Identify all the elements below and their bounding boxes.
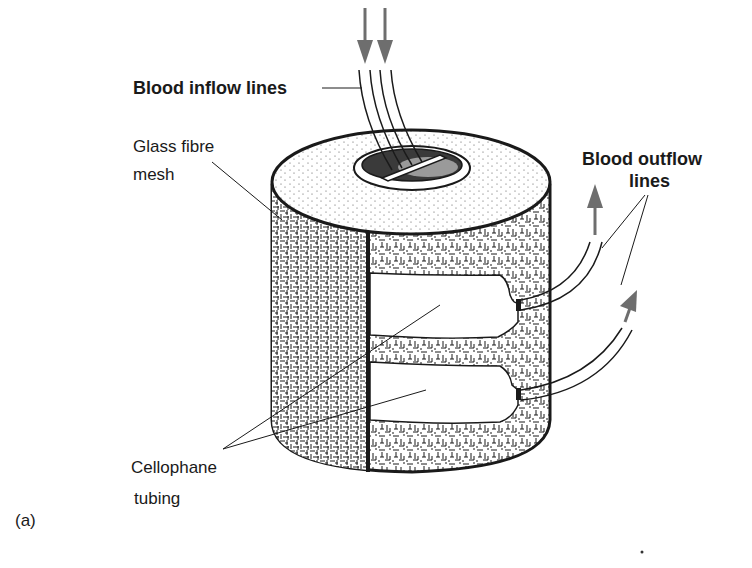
label-cellophane-tubing-line2: tubing xyxy=(134,488,180,509)
outflow-arrow-2-head xyxy=(620,290,637,312)
outflow-arrow-1-head xyxy=(587,184,603,208)
label-glass-fibre-mesh-line1: Glass fibre xyxy=(133,136,214,157)
outflow-arrow-2-shaft xyxy=(625,308,630,322)
cylinder-top xyxy=(272,130,550,234)
label-blood-outflow-line2: lines xyxy=(629,171,670,192)
inflow-arrow-2-head xyxy=(377,40,393,64)
inflow-arrows xyxy=(357,8,393,64)
coil-dialyser-illustration xyxy=(0,0,752,568)
cellophane-tube-upper xyxy=(370,273,518,338)
panel-label: (a) xyxy=(15,510,36,531)
leader-outflow-1 xyxy=(602,195,645,248)
label-blood-inflow-lines: Blood inflow lines xyxy=(133,78,287,99)
label-cellophane-tubing-line1: Cellophane xyxy=(131,457,217,478)
speck xyxy=(641,551,644,554)
label-glass-fibre-mesh-line2: mesh xyxy=(133,164,175,185)
label-blood-outflow-line1: Blood outflow xyxy=(582,149,702,170)
outflow-arrows xyxy=(587,184,637,322)
cellophane-tube-lower xyxy=(370,362,518,423)
inflow-arrow-1-head xyxy=(357,40,373,64)
